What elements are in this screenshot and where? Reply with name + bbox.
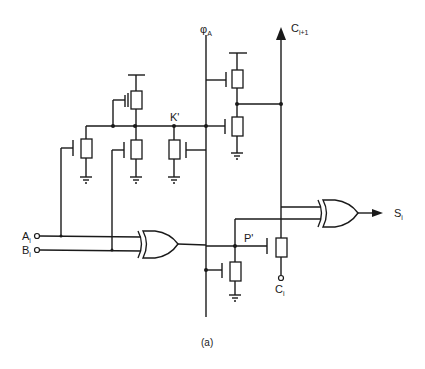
input-b-wire	[40, 250, 141, 251]
nmos-transistor	[131, 140, 142, 159]
xor-gate-2	[318, 200, 358, 227]
nmos-transistor	[81, 139, 92, 158]
k-node-label: K'	[170, 111, 179, 123]
input-a-terminal	[35, 234, 40, 239]
circuit-diagram: φA Ci+1 K' P' Ai Bi Ci Si (a)	[0, 0, 425, 369]
figure-caption: (a)	[201, 337, 213, 348]
nmos-pass-transistor	[276, 238, 287, 257]
xor-gate-1	[138, 231, 178, 258]
nmos-transistor	[169, 140, 180, 159]
nmos-transistor	[232, 70, 243, 88]
input-a-label: Ai	[22, 230, 31, 244]
carry-out-label: Ci+1	[291, 22, 309, 36]
pmos-transistor	[131, 91, 142, 109]
nmos-transistor	[230, 262, 241, 281]
arrow-right-icon	[372, 209, 383, 217]
nmos-transistor	[232, 117, 243, 136]
sum-out-label: Si	[394, 207, 403, 221]
phi-a-label: φA	[200, 23, 212, 37]
input-b-terminal	[35, 248, 40, 253]
p-node-label: P'	[244, 232, 253, 244]
carry-in-label: Ci	[275, 283, 285, 297]
input-a-wire	[40, 236, 141, 237]
arrow-up-icon	[276, 27, 286, 40]
input-b-label: Bi	[22, 244, 31, 258]
carry-in-terminal	[279, 276, 284, 281]
